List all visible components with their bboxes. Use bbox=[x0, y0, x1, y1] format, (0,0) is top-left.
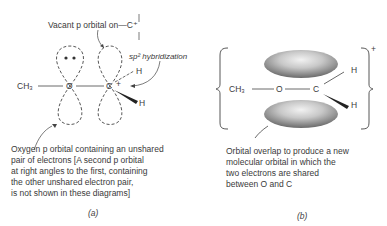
atom-h2: H bbox=[139, 98, 145, 109]
atom-h2-b: H bbox=[351, 100, 357, 111]
wedge-bond bbox=[114, 90, 138, 104]
caption-b: (b) bbox=[297, 211, 307, 221]
desc-a-line-3: at right angles to the first, containing bbox=[11, 166, 148, 177]
lower-pi-lobe bbox=[264, 100, 338, 128]
vacant-orbital-label: Vacant p orbital on—C⁺ bbox=[48, 20, 138, 31]
atom-ch3-b: CH₃ bbox=[229, 84, 245, 95]
desc-a-line-4: the other unshared electron pair, bbox=[11, 177, 133, 188]
atom-h1-b: H bbox=[351, 65, 357, 76]
lone-pair-dot bbox=[72, 56, 75, 59]
lone-pair-dot bbox=[64, 56, 67, 59]
atom-h1: H bbox=[136, 66, 142, 77]
desc-b-line-4: between O and C bbox=[226, 179, 292, 190]
desc-b-line-2: molecular orbital in which the bbox=[226, 157, 336, 168]
desc-b-line-3: two electrons are shared bbox=[226, 168, 319, 179]
desc-a-line-1: Oxygen p orbital containing an unshared bbox=[11, 144, 164, 155]
charge-b: + bbox=[371, 44, 376, 55]
desc-a-line-2: pair of electrons [A second p orbital bbox=[11, 155, 144, 166]
atom-o-b: O bbox=[276, 84, 283, 95]
atom-ch3: CH₃ bbox=[17, 81, 33, 92]
sp2-label: sp² hybridization bbox=[129, 51, 187, 62]
desc-b-line-1: Orbital overlap to produce a new bbox=[226, 146, 349, 157]
desc-a-line-5: is not shown in these diagrams] bbox=[11, 188, 130, 199]
upper-pi-lobe bbox=[264, 50, 338, 78]
charge: + bbox=[116, 79, 121, 90]
atom-o: O bbox=[66, 81, 73, 92]
caption-a: (a) bbox=[88, 208, 98, 218]
atom-c: C bbox=[106, 81, 112, 92]
atom-c-b: C bbox=[313, 84, 319, 95]
